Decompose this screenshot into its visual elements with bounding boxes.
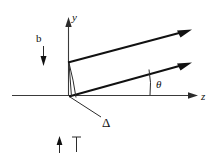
upper-ray-shaft xyxy=(68,33,181,63)
lower-ray-arrowhead xyxy=(177,63,192,71)
displacement-pointer xyxy=(70,97,101,117)
b-arrow-head xyxy=(41,56,47,66)
lower-ray-shaft xyxy=(69,66,181,97)
z-axis-label: z xyxy=(200,90,206,102)
scattered-ray-lower xyxy=(69,63,192,97)
spin-up-arrow-head xyxy=(57,136,63,145)
scattering-diagram-figure: y z b θ Δ xyxy=(0,0,212,161)
delta-line xyxy=(70,97,101,117)
impact-parameter-label: b xyxy=(36,32,42,44)
z-axis xyxy=(12,92,198,99)
deflection-connector xyxy=(69,63,76,98)
diagram-canvas: y z b θ Δ xyxy=(0,0,212,161)
displacement-label: Δ xyxy=(102,115,110,130)
incident-ray-upper xyxy=(68,30,192,63)
scattering-angle-label: θ xyxy=(156,78,162,90)
upper-ray-arrowhead xyxy=(177,30,192,38)
z-axis-arrowhead xyxy=(188,92,198,99)
y-axis-arrowhead xyxy=(65,17,71,27)
impact-parameter-arrow xyxy=(41,46,47,66)
spin-glyph-group xyxy=(57,136,81,153)
y-axis-label: y xyxy=(71,11,77,23)
